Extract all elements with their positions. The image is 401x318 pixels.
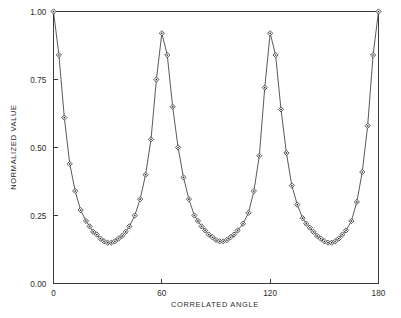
- data-point-center-dot: [145, 174, 147, 176]
- data-point-center-dot: [356, 201, 358, 203]
- data-point-center-dot: [222, 240, 224, 242]
- data-point-center-dot: [53, 11, 55, 13]
- data-point-center-dot: [342, 234, 344, 236]
- data-point-center-dot: [230, 236, 232, 238]
- data-point-center-dot: [134, 215, 136, 217]
- data-point-center-dot: [166, 54, 168, 56]
- data-point-center-dot: [110, 242, 112, 244]
- data-series-line: [54, 12, 379, 243]
- data-point-center-dot: [139, 198, 141, 200]
- y-tick-label: 1.00: [30, 8, 47, 17]
- data-point-center-dot: [280, 109, 282, 111]
- data-point-center-dot: [74, 190, 76, 192]
- x-axis-ticks: 060120180: [51, 279, 386, 298]
- data-point-center-dot: [89, 226, 91, 228]
- data-point-center-dot: [128, 226, 130, 228]
- data-point-center-dot: [345, 230, 347, 232]
- data-point-center-dot: [331, 242, 333, 244]
- chart-canvas: 060120180 0.000.250.500.751.00 CORRELATE…: [0, 0, 401, 318]
- series-polyline: [54, 12, 379, 243]
- y-tick-label: 0.75: [30, 76, 47, 85]
- data-point-markers: [51, 9, 381, 245]
- data-point-center-dot: [58, 54, 60, 56]
- data-point-center-dot: [275, 54, 277, 56]
- data-point-center-dot: [313, 231, 315, 233]
- data-point-center-dot: [309, 227, 311, 229]
- data-point-center-dot: [114, 240, 116, 242]
- data-point-center-dot: [233, 234, 235, 236]
- x-tick-label: 120: [263, 289, 277, 298]
- data-point-center-dot: [121, 235, 123, 237]
- data-point-center-dot: [248, 212, 250, 214]
- data-point-center-dot: [177, 147, 179, 149]
- y-tick-label: 0.50: [30, 144, 47, 153]
- y-axis-title: NORMALIZED VALUE: [9, 104, 18, 189]
- data-point-center-dot: [80, 209, 82, 211]
- data-point-center-dot: [334, 240, 336, 242]
- data-point-center-dot: [302, 217, 304, 219]
- data-point-center-dot: [269, 32, 271, 34]
- data-point-center-dot: [264, 87, 266, 89]
- data-point-center-dot: [197, 220, 199, 222]
- data-point-center-dot: [150, 138, 152, 140]
- data-point-center-dot: [215, 239, 217, 241]
- y-tick-label: 0.25: [30, 212, 47, 221]
- data-point-center-dot: [367, 125, 369, 127]
- data-point-center-dot: [320, 238, 322, 240]
- data-point-center-dot: [69, 163, 71, 165]
- data-point-center-dot: [253, 190, 255, 192]
- data-point-center-dot: [208, 234, 210, 236]
- data-point-center-dot: [156, 79, 158, 81]
- data-point-center-dot: [316, 235, 318, 237]
- data-point-center-dot: [193, 215, 195, 217]
- data-point-center-dot: [161, 32, 163, 34]
- x-tick-label: 0: [51, 289, 56, 298]
- data-point-center-dot: [378, 11, 380, 13]
- data-point-center-dot: [212, 236, 214, 238]
- data-point-center-dot: [305, 223, 307, 225]
- data-point-center-dot: [188, 198, 190, 200]
- data-point-center-dot: [201, 226, 203, 228]
- chart-figure: 060120180 0.000.250.500.751.00 CORRELATE…: [0, 0, 401, 318]
- data-point-center-dot: [100, 238, 102, 240]
- data-point-center-dot: [372, 54, 374, 56]
- data-point-center-dot: [286, 152, 288, 154]
- data-point-center-dot: [361, 171, 363, 173]
- data-point-center-dot: [351, 220, 353, 222]
- data-point-center-dot: [242, 223, 244, 225]
- data-point-center-dot: [183, 177, 185, 179]
- data-point-center-dot: [226, 239, 228, 241]
- data-point-center-dot: [172, 106, 174, 108]
- x-axis-title: CORRELATED ANGLE: [171, 300, 259, 309]
- data-point-center-dot: [118, 238, 120, 240]
- data-point-center-dot: [296, 204, 298, 206]
- data-point-center-dot: [204, 230, 206, 232]
- data-point-center-dot: [237, 230, 239, 232]
- y-tick-label: 0.00: [30, 280, 47, 289]
- data-point-center-dot: [125, 231, 127, 233]
- data-point-center-dot: [92, 231, 94, 233]
- data-point-center-dot: [63, 117, 65, 119]
- data-point-center-dot: [258, 155, 260, 157]
- data-point-center-dot: [338, 238, 340, 240]
- data-point-center-dot: [103, 240, 105, 242]
- x-tick-label: 180: [372, 289, 386, 298]
- x-tick-label: 60: [157, 289, 167, 298]
- data-point-center-dot: [96, 234, 98, 236]
- data-point-center-dot: [291, 185, 293, 187]
- data-point-center-dot: [85, 220, 87, 222]
- data-point-center-dot: [323, 240, 325, 242]
